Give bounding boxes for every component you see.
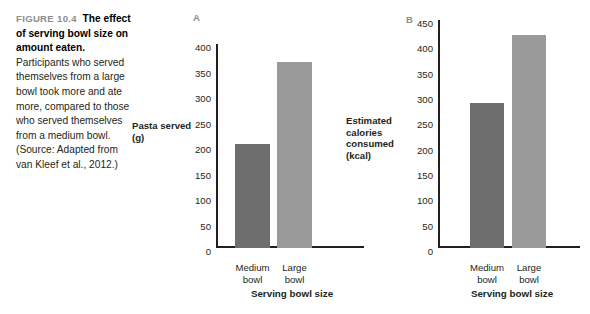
x-axis-line-b xyxy=(438,246,580,248)
figure-number: FIGURE 10.4 xyxy=(16,13,77,24)
y-tick-label: 350 xyxy=(417,70,433,80)
x-axis-label-a: Serving bowl size xyxy=(212,288,372,299)
figure-caption: FIGURE 10.4 The effect of serving bowl s… xyxy=(16,12,134,173)
bar-medium-bowl xyxy=(235,144,270,248)
y-tick-label: 300 xyxy=(195,94,211,104)
figure-body: Participants who served themselves from … xyxy=(16,57,129,170)
x-axis-label-b: Serving bowl size xyxy=(432,288,590,299)
caption-text: FIGURE 10.4 The effect of serving bowl s… xyxy=(16,12,134,173)
y-tick-label: 0 xyxy=(206,247,211,257)
y-tick-label: 350 xyxy=(195,69,211,79)
category-label: Large bowl xyxy=(268,262,321,285)
y-axis-line-a xyxy=(216,44,218,248)
bar-large-bowl xyxy=(512,35,546,248)
y-tick-label: 300 xyxy=(417,95,433,105)
plot-area-b: 050100150200250300350400450 xyxy=(438,20,590,252)
y-tick-label: 150 xyxy=(195,171,211,181)
chart-panel-b: B Estimated calories consumed (kcal) 050… xyxy=(396,0,590,314)
bar-large-bowl xyxy=(277,62,312,248)
panel-letter-a: A xyxy=(193,12,200,23)
y-tick-label: 50 xyxy=(200,222,211,232)
y-tick-label: 450 xyxy=(417,19,433,29)
panel-letter-b: B xyxy=(406,14,413,25)
y-tick-label: 150 xyxy=(417,171,433,181)
category-label: Large bowl xyxy=(503,262,555,285)
y-tick-label: 200 xyxy=(417,146,433,156)
bar-medium-bowl xyxy=(470,103,504,248)
y-axis-label-b: Estimated calories consumed (kcal) xyxy=(346,115,408,161)
y-tick-label: 100 xyxy=(195,196,211,206)
y-tick-label: 200 xyxy=(195,145,211,155)
y-tick-label: 400 xyxy=(417,45,433,55)
y-tick-label: 0 xyxy=(428,247,433,257)
y-tick-label: 250 xyxy=(417,121,433,131)
y-tick-label: 400 xyxy=(195,43,211,53)
y-tick-label: 100 xyxy=(417,197,433,207)
y-tick-label: 250 xyxy=(195,120,211,130)
y-axis-line-b xyxy=(438,20,440,248)
y-axis-label-a: Pasta served (g) xyxy=(132,120,196,143)
y-tick-label: 50 xyxy=(422,222,433,232)
